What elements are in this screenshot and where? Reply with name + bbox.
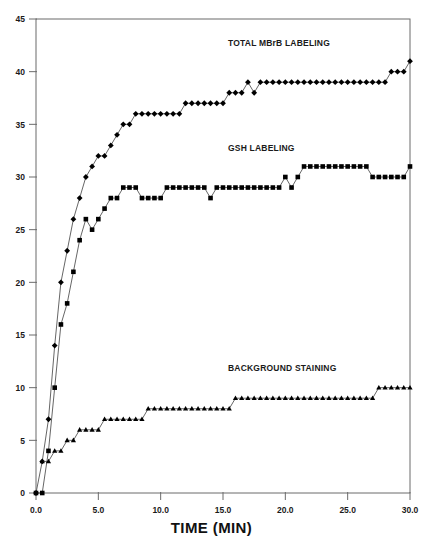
x-axis-tick-label: 5.0 <box>92 505 104 515</box>
data-point-square <box>71 270 76 275</box>
series-square <box>34 164 413 495</box>
y-axis-tick-label: 45 <box>16 14 26 24</box>
data-point-diamond <box>83 174 89 180</box>
data-point-diamond <box>145 111 151 117</box>
data-point-diamond <box>332 79 338 85</box>
data-point-diamond <box>282 79 288 85</box>
data-point-diamond <box>326 79 332 85</box>
data-point-diamond <box>208 100 214 106</box>
data-point-square <box>109 196 114 201</box>
data-point-diamond <box>245 79 251 85</box>
data-point-square <box>152 196 157 201</box>
data-point-diamond <box>139 111 145 117</box>
data-point-diamond <box>183 100 189 106</box>
data-point-square <box>165 185 170 190</box>
data-point-square <box>52 385 57 390</box>
data-point-diamond <box>270 79 276 85</box>
data-point-diamond <box>64 248 70 254</box>
data-point-square <box>339 164 344 169</box>
data-point-diamond <box>239 90 245 96</box>
data-point-diamond <box>345 79 351 85</box>
chart-figure: 0510152025303540450.05.010.015.020.025.0… <box>0 0 423 549</box>
data-point-square <box>289 185 294 190</box>
data-point-square <box>264 185 269 190</box>
data-point-square <box>327 164 332 169</box>
data-point-diamond <box>214 100 220 106</box>
data-point-square <box>302 164 307 169</box>
data-point-square <box>46 449 51 454</box>
series-label-total-mbrb-labeling: TOTAL MBrB LABELING <box>228 38 330 48</box>
data-point-square <box>183 185 188 190</box>
y-axis-tick-label: 0 <box>20 488 25 498</box>
data-point-square <box>383 175 388 180</box>
data-point-diamond <box>376 79 382 85</box>
y-axis: 051015202530354045 <box>16 14 37 498</box>
data-point-diamond <box>71 216 77 222</box>
data-point-diamond <box>264 79 270 85</box>
data-point-square <box>308 164 313 169</box>
y-axis-tick-label: 5 <box>20 436 25 446</box>
series-label-gsh-labeling: GSH LABELING <box>228 143 295 153</box>
data-point-diamond <box>158 111 164 117</box>
x-axis: 0.05.010.015.020.025.030.0 <box>30 492 418 515</box>
series-triangle <box>40 385 413 463</box>
chart-plot-area: 0510152025303540450.05.010.015.020.025.0… <box>0 0 423 549</box>
data-point-square <box>271 185 276 190</box>
x-axis-tick-label: 30.0 <box>402 505 419 515</box>
data-point-diamond <box>307 79 313 85</box>
data-point-square <box>90 227 95 232</box>
data-point-diamond <box>289 79 295 85</box>
y-axis-tick-label: 35 <box>16 120 26 130</box>
y-axis-tick-label: 15 <box>16 330 26 340</box>
data-point-square <box>246 185 251 190</box>
data-point-diamond <box>388 69 394 75</box>
data-point-diamond <box>301 79 307 85</box>
data-point-square <box>121 185 126 190</box>
x-axis-tick-label: 25.0 <box>339 505 356 515</box>
data-point-square <box>34 491 39 496</box>
data-point-diamond <box>251 90 257 96</box>
data-point-diamond <box>220 100 226 106</box>
data-point-square <box>40 491 45 496</box>
data-point-square <box>233 185 238 190</box>
x-axis-tick-label: 0.0 <box>30 505 42 515</box>
data-point-square <box>377 175 382 180</box>
data-point-diamond <box>46 416 52 422</box>
data-point-diamond <box>120 121 126 127</box>
y-axis-tick-label: 30 <box>16 172 26 182</box>
data-point-diamond <box>114 132 120 138</box>
data-point-square <box>258 185 263 190</box>
data-point-diamond <box>170 111 176 117</box>
y-axis-tick-label: 10 <box>16 383 26 393</box>
data-point-square <box>296 175 301 180</box>
data-point-square <box>96 217 101 222</box>
data-point-diamond <box>407 58 413 64</box>
data-point-square <box>364 164 369 169</box>
data-point-diamond <box>339 79 345 85</box>
data-point-square <box>208 196 213 201</box>
data-point-diamond <box>195 100 201 106</box>
data-point-diamond <box>152 111 158 117</box>
data-point-square <box>177 185 182 190</box>
series-line <box>36 166 410 493</box>
data-point-diamond <box>108 143 114 149</box>
data-point-square <box>401 175 406 180</box>
y-axis-tick-label: 40 <box>16 67 26 77</box>
data-point-square <box>171 185 176 190</box>
data-point-diamond <box>320 79 326 85</box>
data-point-square <box>239 185 244 190</box>
data-point-square <box>214 185 219 190</box>
data-point-diamond <box>176 111 182 117</box>
data-point-square <box>320 164 325 169</box>
x-axis-tick-label: 10.0 <box>152 505 169 515</box>
data-point-diamond <box>201 100 207 106</box>
data-point-diamond <box>102 153 108 159</box>
x-axis-tick-label: 20.0 <box>277 505 294 515</box>
data-point-diamond <box>314 79 320 85</box>
data-point-square <box>333 164 338 169</box>
x-axis-title: TIME (MIN) <box>0 519 423 536</box>
data-point-square <box>370 175 375 180</box>
data-point-diamond <box>95 153 101 159</box>
data-point-diamond <box>401 69 407 75</box>
data-point-diamond <box>258 79 264 85</box>
